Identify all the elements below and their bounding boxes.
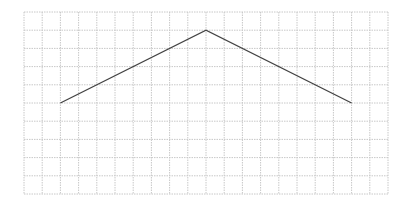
grid-lines bbox=[24, 12, 388, 194]
grid-diagram bbox=[0, 0, 405, 219]
